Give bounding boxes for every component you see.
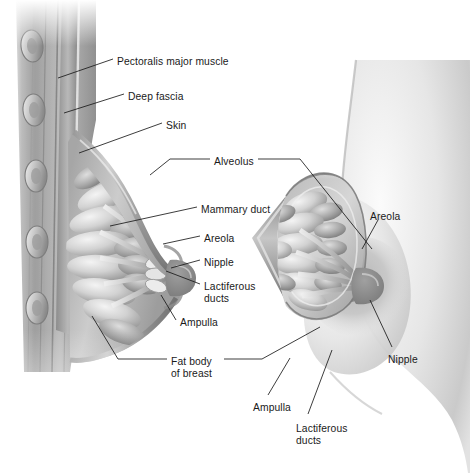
fade-bottom	[0, 330, 200, 473]
leader-alveolus-left	[150, 159, 210, 175]
leader-ampulla-bottom	[268, 358, 290, 395]
torso-lower-fold	[330, 372, 382, 414]
leader-areola-left	[163, 236, 200, 244]
fade-left	[0, 0, 22, 473]
breast-anatomy-figure: Pectoralis major muscleDeep fasciaSkinAl…	[0, 0, 470, 473]
sagittal-section-group	[14, 0, 196, 380]
fade-top	[0, 0, 470, 46]
anatomy-illustration	[0, 0, 470, 473]
